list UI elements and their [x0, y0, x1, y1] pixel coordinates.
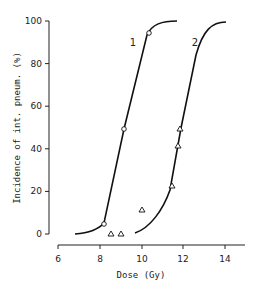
- curve-2-label: 2: [192, 37, 198, 48]
- curve-1-label: 1: [130, 37, 136, 48]
- svg-text:14: 14: [219, 254, 231, 264]
- y-tick-labels: 100 80 60 40 20 0: [25, 16, 42, 239]
- svg-text:8: 8: [97, 254, 103, 264]
- y-ticks: [45, 21, 49, 234]
- svg-text:60: 60: [31, 101, 43, 111]
- x-ticks: [58, 245, 225, 249]
- svg-text:100: 100: [25, 16, 42, 26]
- svg-text:0: 0: [36, 229, 42, 239]
- svg-text:40: 40: [31, 144, 43, 154]
- svg-text:80: 80: [31, 59, 43, 69]
- svg-text:10: 10: [136, 254, 148, 264]
- x-tick-labels: 6 8 10 12 14: [55, 254, 231, 264]
- x-axis-label: Dose (Gy): [117, 270, 166, 280]
- svg-text:6: 6: [55, 254, 61, 264]
- svg-text:20: 20: [31, 186, 43, 196]
- y-axis-label: Incidence of int. pneum. (%): [12, 52, 22, 204]
- chart: 100 80 60 40 20 0 Incidence of int. pneu…: [0, 0, 259, 288]
- svg-text:12: 12: [177, 254, 188, 264]
